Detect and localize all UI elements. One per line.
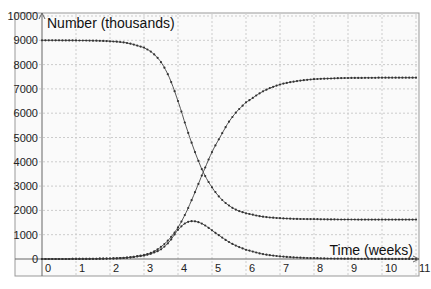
- data-point: [252, 97, 254, 99]
- data-point: [412, 258, 414, 260]
- data-point: [112, 257, 114, 259]
- y-tick-label: 1000: [14, 229, 38, 241]
- data-point: [286, 256, 288, 258]
- data-point: [106, 258, 108, 260]
- data-point: [401, 258, 403, 260]
- data-point: [143, 255, 145, 257]
- data-point: [204, 166, 206, 168]
- data-point: [320, 218, 322, 220]
- data-point: [184, 121, 186, 123]
- data-point: [310, 78, 312, 80]
- data-point: [218, 138, 220, 140]
- data-point: [412, 77, 414, 79]
- data-point: [225, 126, 227, 128]
- data-point: [310, 218, 312, 220]
- data-point: [194, 220, 196, 222]
- data-point: [265, 254, 267, 256]
- data-point: [371, 77, 373, 79]
- data-point: [191, 220, 193, 222]
- data-point: [119, 257, 121, 259]
- data-point: [340, 218, 342, 220]
- y-axis-label: Number (thousands): [47, 15, 175, 31]
- data-point: [344, 218, 346, 220]
- data-point: [85, 258, 87, 260]
- data-point: [157, 248, 159, 250]
- data-point: [323, 218, 325, 220]
- data-point: [225, 202, 227, 204]
- data-point: [82, 258, 84, 260]
- data-point: [248, 213, 250, 215]
- data-point: [330, 77, 332, 79]
- chart: 0123456789101101000200030004000500060007…: [0, 0, 431, 289]
- data-point: [235, 209, 237, 211]
- data-point: [255, 214, 257, 216]
- data-point: [313, 218, 315, 220]
- data-point: [395, 258, 397, 260]
- data-point: [265, 89, 267, 91]
- data-point: [177, 100, 179, 102]
- data-point: [388, 77, 390, 79]
- x-axis-label: Time (weeks): [330, 242, 414, 258]
- data-point: [214, 144, 216, 146]
- data-point: [163, 243, 165, 245]
- data-point: [245, 249, 247, 251]
- data-point: [405, 77, 407, 79]
- data-point: [371, 219, 373, 221]
- data-point: [415, 77, 417, 79]
- data-point: [75, 39, 77, 41]
- data-point: [78, 39, 80, 41]
- x-tick-label: 7: [283, 262, 289, 274]
- data-point: [388, 258, 390, 260]
- data-point: [126, 257, 128, 259]
- data-point: [48, 258, 50, 260]
- data-point: [361, 219, 363, 221]
- data-point: [184, 222, 186, 224]
- data-point: [201, 168, 203, 170]
- data-point: [197, 183, 199, 185]
- data-point: [184, 214, 186, 216]
- data-point: [174, 233, 176, 235]
- data-point: [89, 40, 91, 42]
- data-point: [269, 87, 271, 89]
- x-tick-label: 11: [419, 262, 430, 274]
- data-point: [367, 258, 369, 260]
- data-point: [398, 219, 400, 221]
- data-point: [367, 219, 369, 221]
- data-point: [82, 39, 84, 41]
- data-point: [78, 258, 80, 260]
- data-point: [279, 83, 281, 85]
- data-point: [289, 256, 291, 258]
- data-point: [58, 39, 60, 41]
- data-point: [279, 217, 281, 219]
- data-point: [238, 246, 240, 248]
- data-point: [391, 258, 393, 260]
- data-point: [401, 77, 403, 79]
- data-point: [320, 78, 322, 80]
- data-point: [282, 83, 284, 85]
- data-point: [391, 219, 393, 221]
- y-tick-label: 2000: [14, 204, 38, 216]
- data-point: [58, 258, 60, 260]
- data-point: [381, 258, 383, 260]
- data-point: [415, 258, 417, 260]
- data-point: [293, 81, 295, 83]
- data-point: [235, 112, 237, 114]
- data-point: [248, 99, 250, 101]
- data-point: [228, 241, 230, 243]
- data-point: [123, 257, 125, 259]
- data-point: [242, 247, 244, 249]
- data-point: [129, 256, 131, 258]
- data-point: [187, 132, 189, 134]
- data-point: [119, 41, 121, 43]
- data-point: [252, 214, 254, 216]
- data-point: [395, 219, 397, 221]
- y-tick-label: 6000: [14, 107, 38, 119]
- data-point: [313, 78, 315, 80]
- data-point: [228, 204, 230, 206]
- data-point: [116, 41, 118, 43]
- data-point: [401, 219, 403, 221]
- data-point: [276, 85, 278, 87]
- data-point: [269, 216, 271, 218]
- data-point: [269, 254, 271, 256]
- data-point: [316, 218, 318, 220]
